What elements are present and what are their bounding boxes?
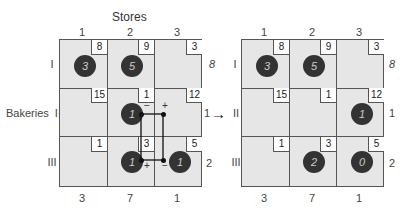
allocation-circle: 0 xyxy=(351,151,373,173)
cost: 3 xyxy=(320,137,336,152)
cost: 12 xyxy=(368,88,384,103)
right-demand-2: 7 xyxy=(302,192,322,204)
right-cell-1-3: 3 xyxy=(336,40,384,89)
loop-sign-minus: − xyxy=(162,160,168,171)
cost: 1 xyxy=(320,88,336,103)
loop-sign-plus: + xyxy=(162,100,168,111)
cost: 15 xyxy=(273,88,289,103)
loop-node xyxy=(161,112,166,117)
right-supply-1: 8 xyxy=(382,58,402,70)
right-supply-2: 1 xyxy=(382,107,402,119)
cost: 8 xyxy=(273,40,289,55)
bakeries-label: Bakeries II xyxy=(6,107,61,119)
left-supply-1: 8 xyxy=(202,58,222,70)
right-col-label-2: 2 xyxy=(302,26,322,38)
loop-sign-minus: − xyxy=(144,100,150,111)
bakeries-text: Bakeries xyxy=(6,107,49,119)
left-grid: 8 9 3 15 1 12 1 3 5 3 5 1 1 1 − + + − xyxy=(59,39,202,187)
allocation-circle: 5 xyxy=(303,55,325,77)
loop-node xyxy=(139,112,144,117)
right-supply-3: 2 xyxy=(382,157,402,169)
left-col-label-2: 2 xyxy=(120,26,140,38)
left-supply-3: 2 xyxy=(199,157,219,169)
cost: 5 xyxy=(368,137,384,152)
stepping-stone-loop xyxy=(60,40,203,188)
cost: 9 xyxy=(320,40,336,55)
right-col-label-1: 1 xyxy=(254,26,274,38)
loop-sign-plus: + xyxy=(144,160,150,171)
right-grid: 8 9 3 15 1 12 1 3 5 3 5 1 2 0 xyxy=(241,39,384,187)
left-col-label-1: 1 xyxy=(72,26,92,38)
allocation-circle: 1 xyxy=(351,103,373,125)
right-demand-1: 3 xyxy=(254,192,274,204)
left-demand-2: 7 xyxy=(120,192,140,204)
right-demand-3: 1 xyxy=(349,192,369,204)
right-cell-2-2: 1 xyxy=(289,88,337,137)
cost: 3 xyxy=(368,40,384,55)
right-cell-2-1: 15 xyxy=(242,88,290,137)
right-cell-3-1: 1 xyxy=(242,137,290,187)
left-demand-1: 3 xyxy=(72,192,92,204)
right-col-label-3: 3 xyxy=(349,26,369,38)
cost: 1 xyxy=(273,137,289,152)
stores-title: Stores xyxy=(112,10,147,24)
allocation-circle: 2 xyxy=(303,151,325,173)
arrow-right-icon: → xyxy=(211,105,226,122)
left-col-label-3: 3 xyxy=(167,26,187,38)
left-demand-3: 1 xyxy=(167,192,187,204)
allocation-circle: 3 xyxy=(256,55,278,77)
